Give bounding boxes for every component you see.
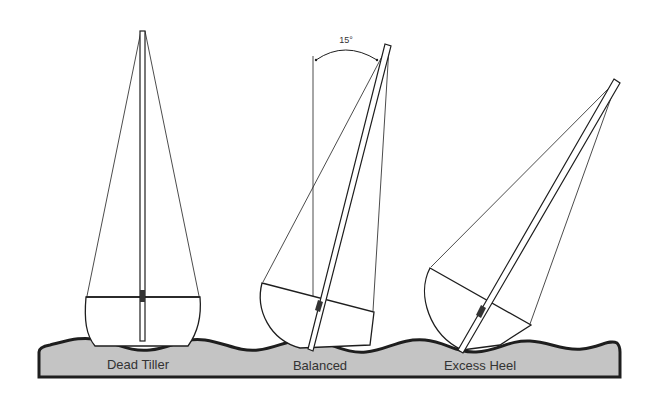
boat-dead-tiller: [85, 31, 200, 346]
angle-label: 15°: [339, 35, 353, 45]
label-balanced: Balanced: [293, 358, 347, 373]
label-dead-tiller: Dead Tiller: [107, 357, 170, 372]
boat-balanced: [260, 44, 391, 351]
hull-excess-heel: [425, 268, 531, 350]
boat-excess-heel: [425, 79, 620, 353]
label-excess-heel: Excess Heel: [444, 358, 516, 373]
heel-diagram: 15° Dead Tiller Balanced Excess Heel: [0, 0, 657, 407]
angle-arc: [316, 50, 377, 60]
